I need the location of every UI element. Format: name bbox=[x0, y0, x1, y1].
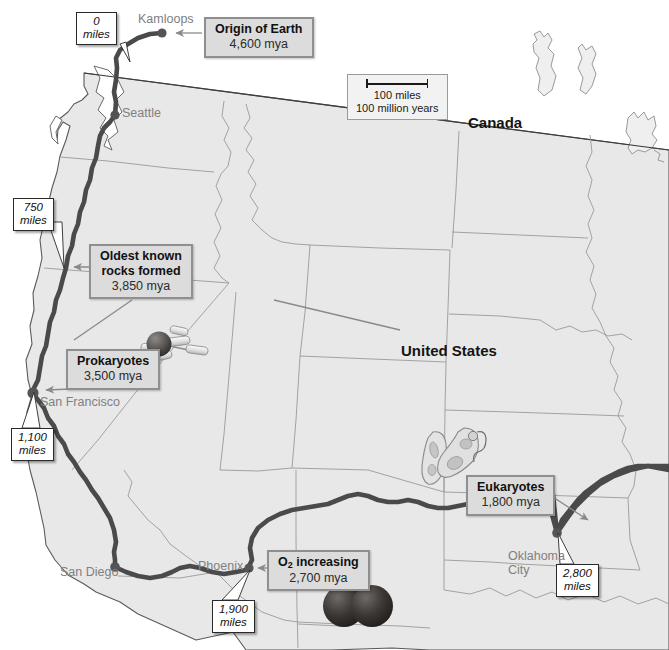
city-dot-oklahoma-city bbox=[552, 528, 562, 538]
callout-eukaryotes[interactable]: Eukaryotes 1,800 mya bbox=[466, 475, 555, 516]
callout-origin-of-earth[interactable]: Origin of Earth 4,600 mya bbox=[204, 17, 314, 58]
mile-tag-750-value: 750 bbox=[20, 201, 47, 214]
scale-bar-graphic bbox=[366, 79, 428, 88]
callout-oldest-known-rocks-title-line1: Oldest known bbox=[100, 249, 182, 264]
scale-time-label: 100 million years bbox=[356, 102, 439, 115]
callout-oldest-known-rocks-age: 3,850 mya bbox=[100, 279, 182, 294]
city-dot-seattle bbox=[110, 110, 119, 119]
mile-tag-1900[interactable]: 1,900 miles bbox=[212, 600, 255, 633]
mile-tag-1100-value: 1,100 bbox=[18, 431, 47, 444]
city-label-kamloops: Kamloops bbox=[138, 13, 194, 27]
mile-tag-0-value: 0 bbox=[83, 15, 110, 28]
organelle-left-2 bbox=[428, 465, 436, 476]
mile-tag-2800-value: 2,800 bbox=[563, 567, 592, 580]
callout-oxygen-increasing-title: O2 increasing bbox=[278, 555, 359, 571]
city-label-san-francisco: San Francisco bbox=[40, 396, 120, 410]
eukaryote-nucleus bbox=[468, 431, 477, 440]
city-label-phoenix: Phoenix bbox=[198, 560, 243, 574]
callout-prokaryotes-age: 3,500 mya bbox=[77, 369, 149, 384]
oxygen-symbol: O bbox=[278, 555, 288, 569]
callout-prokaryotes-title: Prokaryotes bbox=[77, 354, 149, 369]
country-label-united-states: United States bbox=[401, 342, 497, 359]
callout-origin-of-earth-age: 4,600 mya bbox=[215, 37, 303, 52]
city-label-seattle: Seattle bbox=[122, 107, 161, 121]
geologic-timeline-road-map: Canada United States Kamloops Seattle Sa… bbox=[0, 0, 669, 650]
country-label-canada: Canada bbox=[468, 114, 522, 131]
lake-upper-right bbox=[578, 44, 596, 94]
city-label-san-diego: San Diego bbox=[60, 566, 118, 580]
callout-oldest-known-rocks[interactable]: Oldest known rocks formed 3,850 mya bbox=[89, 244, 193, 299]
callout-eukaryotes-title: Eukaryotes bbox=[477, 480, 544, 495]
callout-oldest-known-rocks-title-line2: rocks formed bbox=[100, 264, 182, 279]
coastal-inlet-water bbox=[50, 116, 62, 144]
mile-tag-1100-unit: miles bbox=[18, 444, 47, 457]
mile-tag-0-unit: miles bbox=[83, 28, 110, 41]
callout-oxygen-increasing-age: 2,700 mya bbox=[278, 571, 359, 586]
mile-tag-750[interactable]: 750 miles bbox=[13, 198, 54, 231]
oxygen-increasing-word: increasing bbox=[293, 555, 359, 569]
city-dot-kamloops bbox=[157, 28, 166, 37]
mile-tag-1900-value: 1,900 bbox=[219, 603, 248, 616]
callout-oxygen-increasing[interactable]: O2 increasing 2,700 mya bbox=[267, 550, 370, 591]
mile-tag-1900-unit: miles bbox=[219, 616, 248, 629]
mile-tag-2800-unit: miles bbox=[563, 580, 592, 593]
callout-eukaryotes-age: 1,800 mya bbox=[477, 495, 544, 510]
scale-distance-label: 100 miles bbox=[356, 89, 439, 102]
callout-origin-of-earth-title: Origin of Earth bbox=[215, 22, 303, 37]
mile-tag-1100[interactable]: 1,100 miles bbox=[11, 428, 54, 461]
mile-tag-0[interactable]: 0 miles bbox=[76, 12, 117, 45]
mile-tag-750-unit: miles bbox=[20, 214, 47, 227]
lake-upper-left bbox=[533, 31, 556, 96]
city-label-oklahoma-city-line1: Oklahoma bbox=[508, 549, 565, 563]
map-scale-bar: 100 miles 100 million years bbox=[347, 74, 448, 120]
mile-tag-2800[interactable]: 2,800 miles bbox=[556, 564, 599, 597]
organelle-right-1 bbox=[460, 439, 472, 449]
callout-prokaryotes[interactable]: Prokaryotes 3,500 mya bbox=[66, 349, 160, 390]
